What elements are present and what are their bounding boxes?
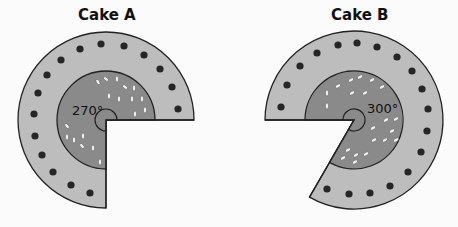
- cakes-diagram: 270°: [0, 0, 458, 227]
- cake-b-angle-label: 300°: [367, 101, 398, 116]
- cake-a: 270°: [18, 32, 194, 208]
- cake-b: 300°: [265, 31, 443, 209]
- cake-a-angle-label: 270°: [72, 103, 103, 118]
